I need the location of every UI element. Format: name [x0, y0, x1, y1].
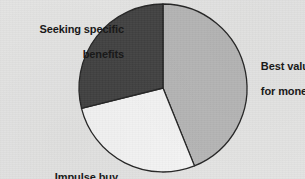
- pie-label-seeking-specific-benefits: Seeking specific benefits: [4, 10, 124, 73]
- pie-label-line-1: Seeking specific: [39, 23, 124, 35]
- pie-label-line-2: benefits: [83, 48, 124, 60]
- pie-label-line-1: Impulse buy: [55, 171, 118, 179]
- pie-label-line-2: for money: [261, 85, 305, 97]
- pie-label-line-1: Best value: [261, 60, 305, 72]
- pie-chart-figure: Seeking specific benefits Best value for…: [0, 0, 305, 179]
- pie-label-best-value-for-money: Best value for money: [249, 47, 305, 110]
- pie-label-impulse-buy: Impulse buy: [43, 158, 133, 179]
